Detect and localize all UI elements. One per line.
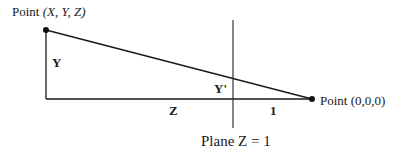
one-label: 1: [270, 104, 277, 117]
point-xyz-coords: (X, Y, Z): [43, 4, 86, 19]
point-xyz-prefix: Point: [12, 4, 43, 19]
z-label: Z: [169, 104, 178, 117]
point-xyz-label: Point (X, Y, Z): [12, 5, 86, 18]
origin-dot: [309, 96, 315, 102]
projection-diagram: [0, 0, 396, 155]
projection-ray: [46, 30, 312, 99]
origin-label: Point (0,0,0): [320, 94, 385, 107]
y-prime-label: Y': [214, 82, 227, 95]
plane-label: Plane Z = 1: [201, 134, 271, 149]
y-label: Y: [52, 56, 61, 69]
point-xyz-dot: [43, 27, 49, 33]
